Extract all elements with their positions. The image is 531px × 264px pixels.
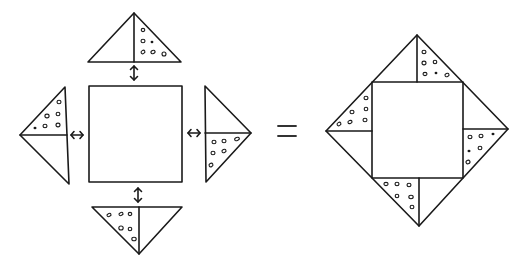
inner-square [372,82,463,178]
diagram-canvas: Square with four triangles assembled int… [0,0,531,264]
exploded-figure [20,13,251,254]
bottom-triangle [92,207,182,254]
top-triangle [88,13,181,62]
equals-sign [278,126,296,136]
assembled-figure [326,35,508,226]
dot-pattern [34,100,62,129]
left-triangle [20,87,69,184]
right-triangle [205,86,251,182]
bottom-double-arrow-icon [135,188,142,202]
dot-pattern-left [336,96,368,126]
right-double-arrow-icon [188,130,200,137]
central-square [89,86,182,182]
left-double-arrow-icon [71,132,83,139]
top-double-arrow-icon [131,66,138,80]
